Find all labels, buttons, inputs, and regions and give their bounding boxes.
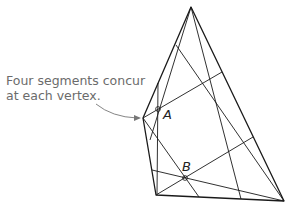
outer-quadrilateral (143, 7, 284, 201)
segment-bottom-left-through-b (156, 137, 253, 195)
callout-arrow (96, 104, 137, 118)
annotation-line-2: at each vertex. (6, 88, 145, 103)
quadrilateral-diagram: A B (0, 0, 291, 209)
arrowhead-icon (134, 115, 141, 121)
segment-diagonal-to-bottom-right (176, 45, 284, 201)
segment-left-to-bottom (143, 118, 199, 197)
point-b-label: B (182, 159, 191, 174)
annotation-text: Four segments concur at each vertex. (6, 73, 145, 103)
annotation-line-1: Four segments concur (6, 73, 145, 88)
point-a-label: A (162, 107, 172, 122)
interior-segments (143, 7, 284, 201)
